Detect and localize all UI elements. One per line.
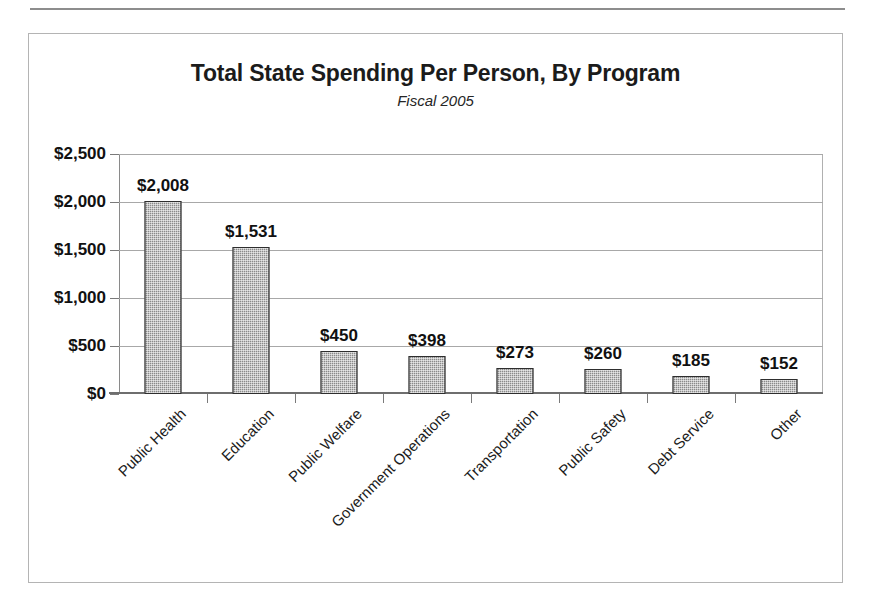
x-axis-tick bbox=[295, 394, 296, 403]
y-axis-label: $2,500 bbox=[54, 144, 106, 164]
chart-title: Total State Spending Per Person, By Prog… bbox=[29, 60, 842, 87]
x-axis-tick bbox=[207, 394, 208, 403]
chart-subtitle: Fiscal 2005 bbox=[29, 92, 842, 109]
bar-value-label: $2,008 bbox=[137, 176, 189, 196]
bar[interactable] bbox=[233, 247, 270, 394]
bar-value-label: $273 bbox=[496, 343, 534, 363]
y-axis-tick bbox=[110, 202, 119, 203]
bar[interactable] bbox=[145, 201, 182, 394]
x-axis-tick bbox=[735, 394, 736, 403]
bar[interactable] bbox=[321, 351, 358, 394]
x-axis-tick bbox=[647, 394, 648, 403]
y-axis-tick bbox=[110, 154, 119, 155]
x-axis-category-label: Education bbox=[218, 405, 277, 464]
y-axis-tick bbox=[110, 250, 119, 251]
bar-value-label: $185 bbox=[672, 351, 710, 371]
bar-value-label: $398 bbox=[408, 331, 446, 351]
bar-slot: $1,531 bbox=[207, 154, 295, 394]
y-axis-label: $1,000 bbox=[54, 288, 106, 308]
plot-area: $0$500$1,000$1,500$2,000$2,500 $2,008$1,… bbox=[119, 154, 823, 394]
bar-slot: $185 bbox=[647, 154, 735, 394]
bar-value-label: $1,531 bbox=[225, 222, 277, 242]
bar[interactable] bbox=[585, 369, 622, 394]
bar[interactable] bbox=[497, 368, 534, 394]
bar-value-label: $260 bbox=[584, 344, 622, 364]
x-axis-category-label: Public Health bbox=[114, 405, 189, 480]
bar-value-label: $450 bbox=[320, 326, 358, 346]
bar-slot: $398 bbox=[383, 154, 471, 394]
x-axis-category-label: Public Safety bbox=[555, 405, 629, 479]
y-axis-label: $0 bbox=[87, 384, 106, 404]
x-axis-tick bbox=[471, 394, 472, 403]
bar[interactable] bbox=[409, 356, 446, 394]
y-axis-tick bbox=[110, 298, 119, 299]
y-axis-label: $500 bbox=[68, 336, 106, 356]
bar[interactable] bbox=[673, 376, 710, 394]
bar-value-label: $152 bbox=[760, 354, 798, 374]
x-axis-category-label: Debt Service bbox=[644, 405, 717, 478]
x-axis-tick bbox=[559, 394, 560, 403]
x-axis-category-label: Public Welfare bbox=[285, 405, 365, 485]
top-horizontal-rule bbox=[30, 8, 845, 10]
y-axis-label: $2,000 bbox=[54, 192, 106, 212]
bar[interactable] bbox=[761, 379, 798, 394]
bar-slot: $2,008 bbox=[119, 154, 207, 394]
bar-slot: $273 bbox=[471, 154, 559, 394]
bar-slot: $260 bbox=[559, 154, 647, 394]
bar-slot: $450 bbox=[295, 154, 383, 394]
x-axis-category-label: Other bbox=[766, 405, 805, 444]
y-axis-label: $1,500 bbox=[54, 240, 106, 260]
x-axis-category-label: Transportation bbox=[461, 405, 541, 485]
y-axis-tick bbox=[110, 346, 119, 347]
chart-figure-frame: Total State Spending Per Person, By Prog… bbox=[28, 33, 843, 583]
y-axis-tick bbox=[110, 394, 119, 395]
bar-slot: $152 bbox=[735, 154, 823, 394]
page-canvas: Total State Spending Per Person, By Prog… bbox=[0, 0, 873, 612]
x-axis-tick bbox=[383, 394, 384, 403]
